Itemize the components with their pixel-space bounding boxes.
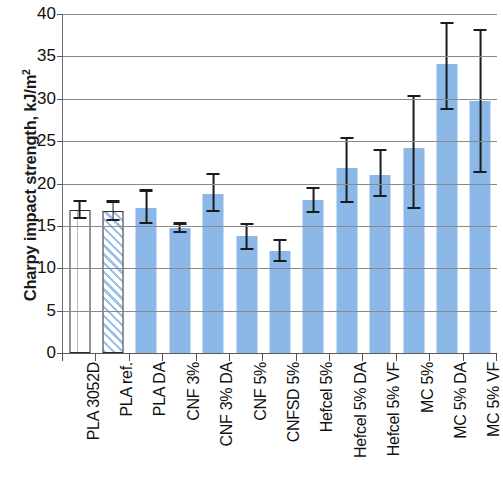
gridline: [63, 311, 497, 312]
error-bar: [273, 239, 286, 263]
x-axis-ticks: [62, 353, 496, 361]
error-bar: [73, 200, 86, 219]
y-axis-tick-label: 10: [37, 258, 56, 278]
y-axis-tick-label: 20: [37, 174, 56, 194]
error-bar: [173, 222, 186, 232]
error-bar-cap-bottom: [207, 210, 220, 212]
error-bar-cap-top: [340, 137, 353, 139]
error-bar-cap-top: [407, 95, 420, 97]
bar: [136, 208, 157, 353]
x-axis-tick: [396, 353, 397, 361]
y-axis-tick: [57, 184, 63, 185]
x-axis-tick-label: PLA ref.: [118, 362, 136, 417]
y-axis-tick-label: 15: [37, 216, 56, 236]
bar: [370, 175, 391, 353]
x-axis-tick: [329, 353, 330, 361]
y-axis-tick: [57, 311, 63, 312]
x-axis-tick-label: Hefcel 5% VF: [385, 362, 403, 456]
error-bar-cap-bottom: [307, 211, 320, 213]
error-bar: [440, 22, 453, 110]
x-axis-tick-label: CNFSD 5%: [285, 362, 303, 442]
x-axis-tick: [95, 353, 96, 361]
error-bar-cap-bottom: [407, 207, 420, 209]
error-bar-cap-bottom: [73, 217, 86, 219]
bar: [203, 194, 224, 353]
gridline: [63, 226, 497, 227]
error-bar: [474, 29, 487, 173]
error-bar-cap-bottom: [140, 222, 153, 224]
error-bar: [407, 95, 420, 209]
plot-area: [62, 14, 497, 353]
y-axis-tick-label: 0: [47, 343, 56, 363]
x-axis-tick: [463, 353, 464, 361]
error-bar-cap-top: [173, 222, 186, 224]
error-bar-stem: [146, 189, 148, 224]
error-bar-stem: [479, 29, 481, 173]
x-axis-tick: [162, 353, 163, 361]
x-axis-tick-label: MC 5% DA: [452, 362, 470, 439]
bar: [103, 211, 124, 353]
error-bar-cap-bottom: [173, 231, 186, 233]
x-axis-tick-label: MC 5%: [419, 362, 437, 413]
gridline: [63, 268, 497, 269]
x-axis-tick: [429, 353, 430, 361]
bar: [269, 251, 290, 353]
gridline: [63, 141, 497, 142]
error-bar-stem: [212, 173, 214, 212]
x-axis-tick: [262, 353, 263, 361]
gridline: [63, 14, 497, 15]
gridline: [63, 184, 497, 185]
error-bar: [374, 149, 387, 197]
y-axis-tick: [57, 14, 63, 15]
error-bar-cap-bottom: [474, 171, 487, 173]
y-axis-tick-label: 40: [37, 4, 56, 24]
error-bar-stem: [446, 22, 448, 110]
error-bar-cap-top: [374, 149, 387, 151]
x-axis-tick-label: CNF 3%: [185, 362, 203, 421]
x-axis-tick: [296, 353, 297, 361]
x-axis-tick: [496, 353, 497, 361]
bar: [303, 200, 324, 353]
x-axis-tick-label: Hefcel 5% DA: [352, 362, 370, 458]
bar: [169, 228, 190, 353]
bar: [69, 210, 90, 353]
x-axis-tick-labels: PLA 3052DPLA ref.PLA DACNF 3%CNF 3% DACN…: [62, 362, 496, 487]
x-axis-tick: [196, 353, 197, 361]
error-bar-stem: [279, 239, 281, 263]
error-bar: [140, 189, 153, 224]
y-axis-tick-label: 30: [37, 89, 56, 109]
error-bar: [207, 173, 220, 212]
x-axis-tick: [229, 353, 230, 361]
gridline: [63, 56, 497, 57]
x-axis-tick-label: CNF 3% DA: [218, 362, 236, 446]
error-bar-cap-bottom: [440, 108, 453, 110]
error-bar: [307, 187, 320, 213]
error-bar-cap-bottom: [240, 248, 253, 250]
error-bar: [240, 223, 253, 249]
error-bar: [340, 137, 353, 203]
error-bar-cap-top: [440, 22, 453, 24]
error-bar: [107, 200, 120, 220]
error-bar-cap-top: [307, 187, 320, 189]
x-axis-tick-label: PLA DA: [151, 362, 169, 416]
y-axis-tick-label: 25: [37, 131, 56, 151]
x-axis-tick: [62, 353, 63, 361]
error-bar-cap-top: [140, 189, 153, 191]
y-axis-tick: [57, 226, 63, 227]
x-axis-tick: [362, 353, 363, 361]
error-bar-cap-top: [474, 29, 487, 31]
bar: [236, 236, 257, 353]
x-axis-tick-label: CNF 5%: [252, 362, 270, 421]
error-bar-cap-top: [73, 200, 86, 202]
error-bar-cap-bottom: [107, 219, 120, 221]
error-bar-cap-bottom: [340, 201, 353, 203]
y-axis-tick: [57, 141, 63, 142]
error-bar-stem: [413, 95, 415, 209]
y-axis-tick-label: 35: [37, 46, 56, 66]
y-axis-tick-label: 5: [47, 301, 56, 321]
error-bar-cap-top: [273, 239, 286, 241]
gridline: [63, 99, 497, 100]
error-bar-cap-top: [207, 173, 220, 175]
x-axis-tick-label: MC 5% VF: [485, 362, 503, 437]
